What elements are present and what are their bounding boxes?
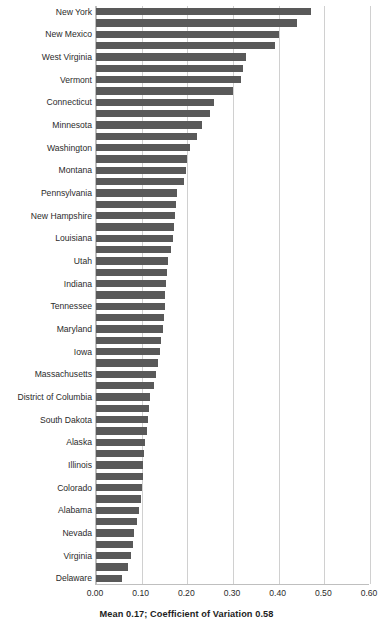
bar-row bbox=[96, 246, 369, 253]
y-axis-label: Nevada bbox=[0, 528, 92, 538]
bar bbox=[96, 167, 186, 174]
y-axis-label: Pennsylvania bbox=[0, 188, 92, 198]
bar bbox=[96, 416, 148, 423]
bar-series bbox=[96, 6, 369, 584]
bar bbox=[96, 359, 158, 366]
bar-row bbox=[96, 99, 369, 106]
bar-row bbox=[96, 518, 369, 525]
bar bbox=[96, 291, 165, 298]
bar bbox=[96, 178, 184, 185]
bar bbox=[96, 303, 165, 310]
y-axis-label: Tennessee bbox=[0, 301, 92, 311]
y-axis-label: Connecticut bbox=[0, 97, 92, 107]
bar bbox=[96, 223, 174, 230]
bar-row bbox=[96, 223, 369, 230]
bar-row bbox=[96, 348, 369, 355]
bar-row bbox=[96, 155, 369, 162]
bar bbox=[96, 461, 143, 468]
bar-row bbox=[96, 507, 369, 514]
bar-row bbox=[96, 8, 369, 15]
bar bbox=[96, 337, 161, 344]
bar bbox=[96, 371, 156, 378]
x-axis-tick: 0.60 bbox=[349, 587, 382, 599]
bar bbox=[96, 269, 167, 276]
bar-row bbox=[96, 541, 369, 548]
bar-row bbox=[96, 257, 369, 264]
bar-row bbox=[96, 563, 369, 570]
bar-row bbox=[96, 314, 369, 321]
bar bbox=[96, 507, 139, 514]
bar bbox=[96, 121, 202, 128]
x-axis-line bbox=[95, 584, 369, 585]
y-axis-label: Washington bbox=[0, 143, 92, 153]
bar bbox=[96, 155, 187, 162]
x-axis-tick: 0.40 bbox=[258, 587, 298, 599]
bar bbox=[96, 42, 275, 49]
bar-row bbox=[96, 280, 369, 287]
bar-row bbox=[96, 359, 369, 366]
y-axis-label: Colorado bbox=[0, 483, 92, 493]
bar-row bbox=[96, 325, 369, 332]
y-axis-label: New Hampshire bbox=[0, 211, 92, 221]
bar-row bbox=[96, 65, 369, 72]
x-axis-tick: 0.20 bbox=[166, 587, 206, 599]
bar-row bbox=[96, 495, 369, 502]
gridline-0.60 bbox=[370, 6, 371, 584]
y-axis-label: Iowa bbox=[0, 347, 92, 357]
x-axis-tick: 0.00 bbox=[75, 587, 115, 599]
bar-row bbox=[96, 575, 369, 582]
bar bbox=[96, 518, 137, 525]
bar bbox=[96, 110, 210, 117]
bar-row bbox=[96, 201, 369, 208]
bar bbox=[96, 87, 233, 94]
bar-row bbox=[96, 427, 369, 434]
bar bbox=[96, 325, 163, 332]
y-axis-label: Delaware bbox=[0, 573, 92, 583]
y-axis-label: New Mexico bbox=[0, 29, 92, 39]
bar-row bbox=[96, 337, 369, 344]
bar bbox=[96, 144, 190, 151]
bar bbox=[96, 76, 241, 83]
bar-row bbox=[96, 212, 369, 219]
bar-row bbox=[96, 405, 369, 412]
y-axis-label: Maryland bbox=[0, 324, 92, 334]
bar-row bbox=[96, 461, 369, 468]
y-axis-label: District of Columbia bbox=[0, 392, 92, 402]
bar bbox=[96, 552, 131, 559]
bar bbox=[96, 65, 243, 72]
bar-row bbox=[96, 31, 369, 38]
bar bbox=[96, 575, 122, 582]
chart-footnote: Mean 0.17; Coefficient of Variation 0.58 bbox=[0, 609, 373, 619]
bar bbox=[96, 439, 145, 446]
bar bbox=[96, 19, 297, 26]
y-axis-label: West Virginia bbox=[0, 52, 92, 62]
bar bbox=[96, 99, 214, 106]
y-axis-label: Minnesota bbox=[0, 120, 92, 130]
y-axis-label: Montana bbox=[0, 165, 92, 175]
bar-row bbox=[96, 473, 369, 480]
bar bbox=[96, 427, 147, 434]
x-axis-tick-labels: 0.000.100.200.300.400.500.60 bbox=[0, 587, 373, 601]
bar-row bbox=[96, 235, 369, 242]
y-axis-label: Utah bbox=[0, 256, 92, 266]
bar-row bbox=[96, 53, 369, 60]
bar-row bbox=[96, 382, 369, 389]
bar-row bbox=[96, 291, 369, 298]
bar-row bbox=[96, 87, 369, 94]
y-axis-label: Massachusetts bbox=[0, 369, 92, 379]
bar bbox=[96, 382, 154, 389]
bar bbox=[96, 529, 134, 536]
bar bbox=[96, 563, 128, 570]
bar bbox=[96, 393, 150, 400]
bar bbox=[96, 31, 279, 38]
bar-row bbox=[96, 529, 369, 536]
bar-row bbox=[96, 416, 369, 423]
y-axis-label: Alaska bbox=[0, 437, 92, 447]
bar bbox=[96, 8, 311, 15]
bar-row bbox=[96, 19, 369, 26]
bar-row bbox=[96, 552, 369, 559]
bar bbox=[96, 53, 246, 60]
y-axis-label: Illinois bbox=[0, 460, 92, 470]
bar-row bbox=[96, 393, 369, 400]
